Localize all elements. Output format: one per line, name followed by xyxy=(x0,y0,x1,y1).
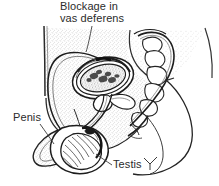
leader-line-testis-tick xyxy=(144,157,157,164)
anatomy-illustration xyxy=(0,0,219,186)
label-blockage-line1: Blockage in xyxy=(60,1,124,13)
label-penis: Penis xyxy=(13,112,41,124)
label-blockage-in-vas-deferens: Blockage in vas deferens xyxy=(60,1,124,24)
anatomy-figure: Blockage in vas deferens Penis Testis xyxy=(0,0,219,186)
label-blockage-line2: vas deferens xyxy=(60,13,124,25)
label-testis: Testis xyxy=(113,159,142,171)
